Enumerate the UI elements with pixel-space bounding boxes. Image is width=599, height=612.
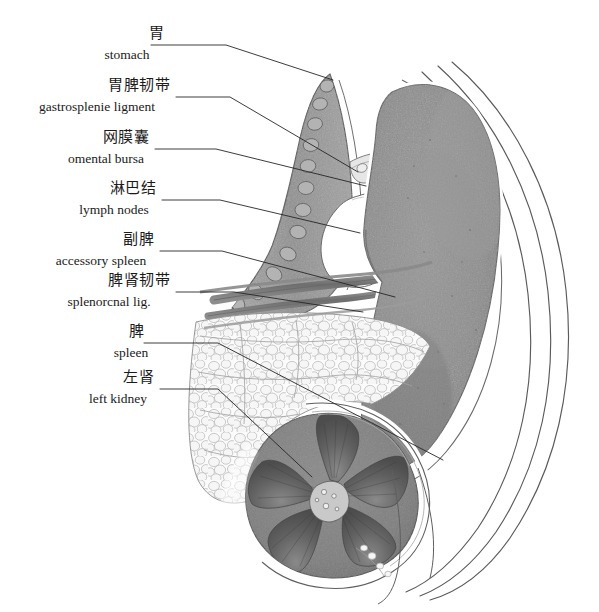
label-omental-bursa-cn: 网膜囊 (95, 130, 149, 145)
label-stomach-en: stomach (90, 48, 164, 62)
label-gastrosplenic-ligament-cn: 胃脾韧带 (100, 78, 170, 93)
label-accessory-spleen-cn: 副脾 (118, 232, 154, 247)
label-lymph-nodes-en: lymph nodes (72, 203, 156, 217)
leader-stomach (151, 45, 333, 80)
label-lymph-nodes-cn: 淋巴结 (102, 181, 156, 196)
label-left-kidney-cn: 左肾 (118, 370, 154, 385)
label-omental-bursa-en: omental bursa (62, 152, 150, 166)
illustration-page: 胃 stomach 胃脾韧带 gastrosplenie ligment 网膜囊… (0, 0, 599, 612)
label-splenorenal-ligament-en: splenorcnal lig. (48, 295, 170, 309)
label-accessory-spleen-en: accessory spleen (48, 254, 154, 268)
spleen-body (362, 80, 516, 470)
label-spleen-cn: 脾 (126, 324, 144, 339)
label-gastrosplenic-ligament-en: gastrosplenie ligment (24, 100, 170, 114)
label-splenorenal-ligament-cn: 脾肾韧带 (100, 273, 170, 288)
label-left-kidney-en: left kidney (82, 392, 154, 406)
label-spleen-en: spleen (98, 346, 164, 360)
label-stomach-cn: 胃 (124, 26, 164, 41)
